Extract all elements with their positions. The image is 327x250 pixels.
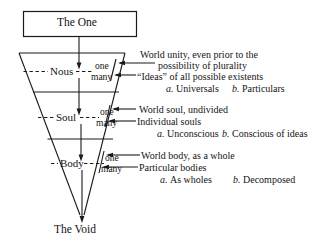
soul-sub-b-label: Conscious of ideas — [232, 128, 308, 139]
nous-one-label: one — [95, 62, 109, 72]
nous-many-description: “Ideas” of all possible existents — [137, 72, 263, 82]
nous-one-description-line1: World unity, even prior to the — [140, 50, 258, 60]
nous-many-label: many — [91, 73, 112, 83]
body-sub-a: a. As wholes — [160, 175, 212, 185]
body-many-description: Particular bodies — [139, 163, 206, 173]
body-sub-b-label: Decomposed — [243, 174, 295, 185]
level-label-nous: Nous — [50, 66, 73, 77]
the-void-label: The Void — [54, 224, 96, 236]
body-sub-b: b. Decomposed — [233, 175, 295, 185]
nous-sub-b-marker: b. — [232, 83, 240, 94]
level-label-body: Body — [60, 158, 84, 169]
body-sub-a-label: As wholes — [170, 174, 212, 185]
emanation-diagram-page: The One The Void Nous Soul Body one many… — [0, 0, 327, 250]
nous-sub-b: b. Particulars — [232, 84, 285, 94]
nous-one-description-line2: possibility of plurality — [158, 61, 247, 71]
body-one-label: one — [105, 154, 119, 164]
body-many-label: many — [101, 165, 122, 175]
soul-one-label: one — [100, 108, 114, 118]
body-one-description: World body, as a whole — [141, 151, 235, 161]
body-sub-b-marker: b. — [233, 174, 241, 185]
nous-sub-a-marker: a. — [166, 83, 174, 94]
nous-sub-b-label: Particulars — [242, 83, 285, 94]
nous-sub-a: a. Universals — [166, 84, 219, 94]
nous-sub-a-label: Universals — [176, 83, 219, 94]
funnel-left-edge — [19, 53, 80, 215]
soul-sub-b-marker: b. — [222, 128, 230, 139]
soul-sub-a: a. Unconscious — [157, 129, 219, 139]
soul-many-description: Individual souls — [137, 117, 201, 127]
soul-sub-b: b. Conscious of ideas — [222, 129, 308, 139]
level-label-soul: Soul — [56, 112, 76, 123]
the-one-label: The One — [57, 17, 97, 29]
soul-many-label: many — [96, 119, 117, 129]
soul-sub-a-marker: a. — [157, 128, 165, 139]
soul-sub-a-label: Unconscious — [167, 128, 219, 139]
body-sub-a-marker: a. — [160, 174, 168, 185]
soul-one-description: World soul, undivided — [139, 105, 228, 115]
